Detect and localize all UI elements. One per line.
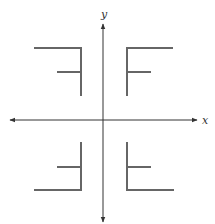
- x-axis-label: x: [202, 114, 209, 127]
- figure-quadrant-1-f: [127, 48, 172, 95]
- coordinate-plane-diagram: x y: [0, 0, 215, 224]
- figure-quadrant-3-rotated-f: [35, 143, 81, 190]
- y-axis-label: y: [100, 8, 108, 21]
- figure-quadrant-2-mirrored-f: [35, 48, 81, 95]
- figure-quadrant-4-flipped-f: [127, 143, 173, 190]
- diagram-svg: x y: [0, 0, 215, 224]
